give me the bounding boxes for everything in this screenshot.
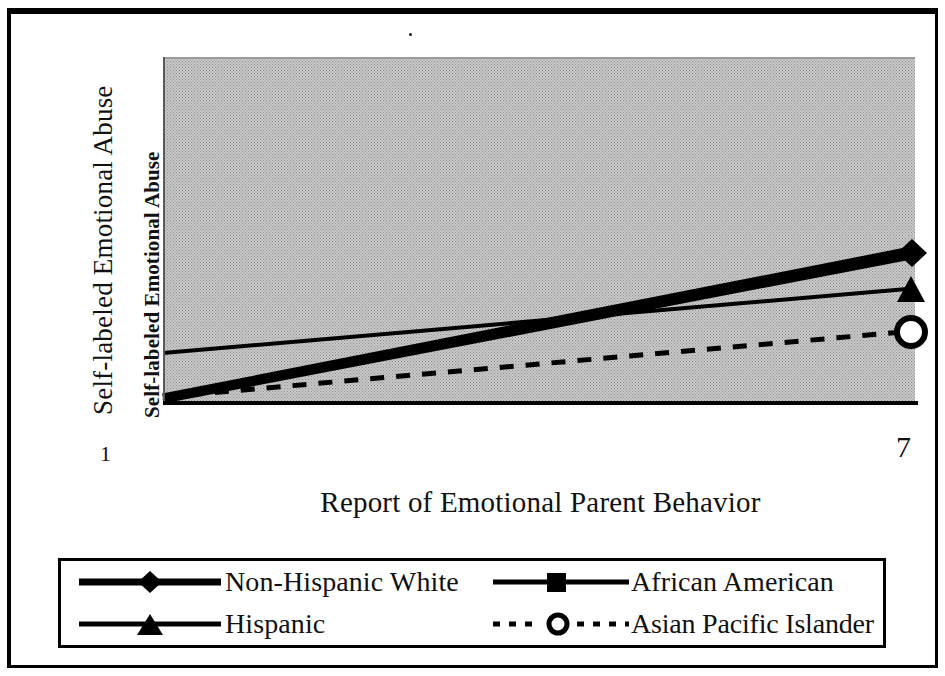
y-axis-title-outer: Self-labeled Emotional Abuse: [88, 85, 119, 415]
legend-item-hispanic: Hispanic: [61, 603, 491, 645]
plot-area: [163, 57, 915, 404]
page-border-bottom: [7, 665, 938, 668]
legend-label-african-american: African American: [631, 566, 834, 598]
legend-box: Non-Hispanic White African American: [58, 558, 886, 648]
legend-sample-hispanic: [75, 611, 225, 637]
x-tick-label-low: 1: [100, 441, 111, 467]
diamond-marker: [897, 239, 927, 267]
legend-sample-asian-pacific-islander: [491, 611, 631, 637]
page-border-top: [7, 8, 938, 14]
y-axis-title-inner: Self-labeled Emotional Abuse: [140, 152, 165, 419]
figure-root: Self-labeled Emotional Abuse Self-labele…: [0, 0, 945, 676]
legend-label-hispanic: Hispanic: [225, 608, 325, 640]
series-line-non-hispanic-white: [163, 251, 911, 398]
diamond-marker: [138, 571, 162, 593]
legend-item-asian-pacific-islander: Asian Pacific Islander: [491, 603, 883, 645]
legend-label-asian-pacific-islander: Asian Pacific Islander: [631, 608, 874, 640]
x-axis-title: Report of Emotional Parent Behavior: [163, 486, 918, 519]
square-marker: [547, 573, 566, 592]
circle-marker: [549, 615, 567, 633]
plot-axis-left: [163, 57, 165, 405]
circle-marker: [897, 318, 925, 346]
legend-label-non-hispanic-white: Non-Hispanic White: [225, 566, 459, 598]
page-border-left: [7, 8, 11, 668]
legend-sample-african-american: [491, 569, 631, 595]
legend-item-non-hispanic-white: Non-Hispanic White: [61, 561, 491, 603]
scan-artifact-speck: [409, 33, 412, 36]
legend-item-african-american: African American: [491, 561, 883, 603]
x-tick-label-high: 7: [896, 430, 911, 464]
plot-lines-svg: [163, 57, 915, 404]
page-border-right: [935, 14, 938, 668]
plot-axis-bottom: [163, 401, 918, 405]
legend-sample-non-hispanic-white: [75, 569, 225, 595]
